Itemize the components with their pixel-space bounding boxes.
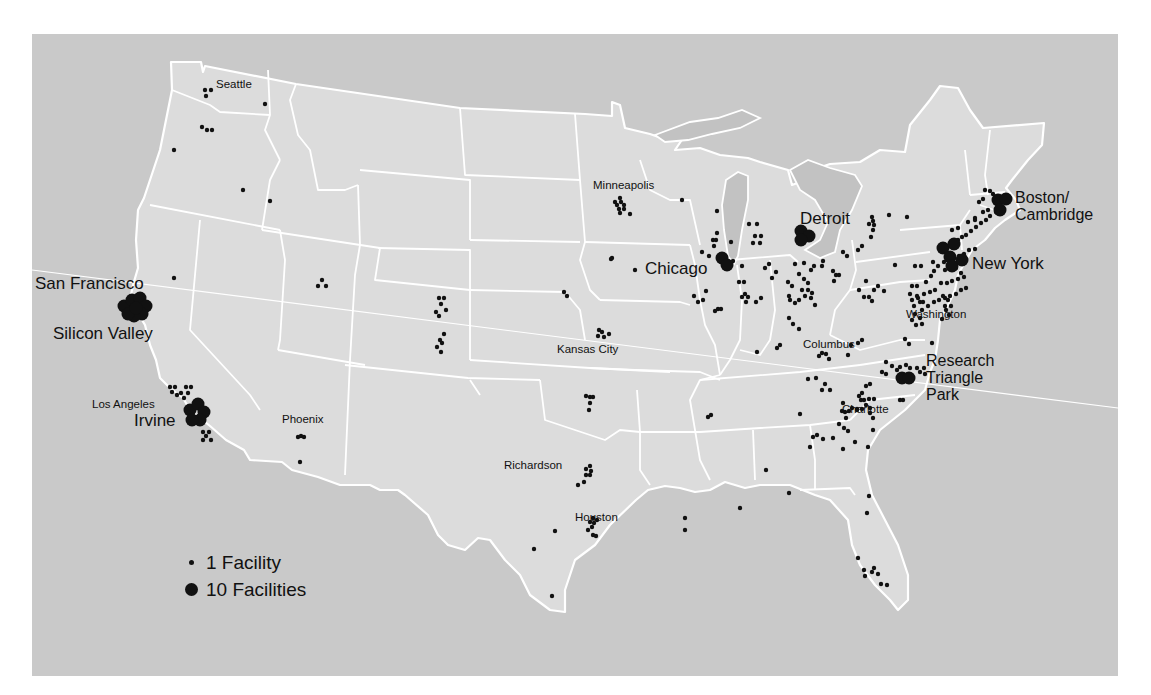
facility-dot — [747, 222, 751, 226]
facility-dot — [924, 280, 928, 284]
facility-dot — [867, 295, 871, 299]
facility-dot — [576, 483, 580, 487]
facility-dot — [820, 264, 824, 268]
facility-dot — [967, 248, 971, 252]
facility-dot — [808, 445, 812, 449]
facility-dot — [845, 254, 849, 258]
facility-dot — [763, 266, 767, 270]
facility-dot — [298, 460, 302, 464]
facility-cluster-dot — [903, 372, 916, 385]
facility-dot — [775, 346, 779, 350]
facility-dot — [787, 294, 791, 298]
facility-dot — [986, 208, 990, 212]
facility-dot — [913, 264, 917, 268]
facility-dot — [988, 214, 992, 218]
city-label-los-angeles: Los Angeles — [92, 399, 155, 411]
facility-dot — [737, 280, 741, 284]
facility-dot — [910, 298, 914, 302]
facility-dot — [862, 568, 866, 572]
facility-dot — [628, 212, 632, 216]
facility-dot — [872, 223, 876, 227]
facility-dot — [945, 281, 949, 285]
facility-dot — [885, 583, 889, 587]
facility-dot — [814, 376, 818, 380]
facility-dot — [715, 231, 719, 235]
facility-dot — [893, 263, 897, 267]
facility-dot — [435, 345, 439, 349]
facility-cluster-dot — [186, 414, 199, 427]
facility-dot — [813, 303, 817, 307]
facility-dot — [774, 270, 778, 274]
city-label-boston: Boston/ — [1015, 189, 1093, 206]
facility-dot — [809, 268, 813, 272]
facility-dot — [932, 300, 936, 304]
facility-dot — [584, 467, 588, 471]
facility-dot — [588, 464, 592, 468]
facility-dot — [832, 279, 836, 283]
facility-dot — [981, 210, 985, 214]
facility-dot — [207, 430, 211, 434]
legend-label-10-facilities: 10 Facilities — [206, 579, 306, 601]
facility-dot — [584, 473, 588, 477]
city-label-triangle: Triangle — [926, 369, 994, 386]
facility-dot — [872, 288, 876, 292]
facility-dot — [296, 435, 300, 439]
facility-dot — [588, 395, 592, 399]
facility-dot — [871, 219, 875, 223]
facility-dot — [950, 279, 954, 283]
city-label-park: Park — [926, 386, 994, 403]
facility-dot — [746, 295, 750, 299]
facility-dot — [977, 200, 981, 204]
facility-dot — [956, 226, 960, 230]
city-label-charlotte: Charlotte — [842, 404, 889, 416]
facility-dot — [175, 393, 179, 397]
facility-dot — [586, 528, 590, 532]
facility-dot — [974, 225, 978, 229]
facility-dot — [615, 203, 619, 207]
facility-dot — [908, 292, 912, 296]
facility-dot — [742, 280, 746, 284]
facility-dot — [751, 241, 755, 245]
facility-dot — [787, 491, 791, 495]
facility-dot — [920, 322, 924, 326]
facility-dot — [622, 203, 626, 207]
facility-dot — [755, 350, 759, 354]
facility-dot — [984, 218, 988, 222]
facility-dot — [437, 314, 441, 318]
lake-superior — [655, 110, 760, 142]
facility-dot — [594, 534, 598, 538]
facility-dot — [948, 294, 952, 298]
facility-dot — [856, 341, 860, 345]
facility-dot — [842, 426, 846, 430]
facility-dot — [744, 300, 748, 304]
facility-dot — [868, 382, 872, 386]
facility-dot — [809, 296, 813, 300]
facility-dot — [754, 300, 758, 304]
facility-dot — [950, 228, 954, 232]
facility-dot — [806, 377, 810, 381]
facility-dot — [618, 196, 622, 200]
city-label-phoenix: Phoenix — [282, 414, 324, 426]
facility-dot — [562, 290, 566, 294]
facility-dot — [440, 341, 444, 345]
facility-dot — [901, 398, 905, 402]
facility-dot — [182, 396, 186, 400]
facility-dot — [841, 447, 845, 451]
facility-dot — [802, 261, 806, 265]
facility-dot — [837, 273, 841, 277]
facility-dot — [797, 327, 801, 331]
facility-dot — [841, 250, 845, 254]
facility-dot — [204, 94, 208, 98]
facility-dot — [933, 288, 937, 292]
facility-dot — [204, 434, 208, 438]
facility-dot — [201, 430, 205, 434]
facility-dot — [324, 284, 328, 288]
facility-cluster-dot — [1000, 193, 1013, 206]
facility-cluster-dot — [795, 234, 808, 247]
facility-dot — [872, 397, 876, 401]
facility-dot — [867, 494, 871, 498]
facility-dot — [712, 244, 716, 248]
facility-cluster-dot — [956, 254, 969, 267]
facility-dot — [758, 241, 762, 245]
facility-dot — [802, 277, 806, 281]
